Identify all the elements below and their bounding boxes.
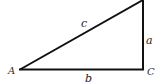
right-triangle-diagram: c a b A C [0,0,166,84]
side-label-c: c [81,17,87,30]
side-c-hypotenuse [20,0,143,70]
vertex-label-a: A [7,65,15,76]
side-label-a: a [146,34,153,47]
side-label-b: b [85,72,92,84]
vertex-label-c: C [147,66,155,77]
